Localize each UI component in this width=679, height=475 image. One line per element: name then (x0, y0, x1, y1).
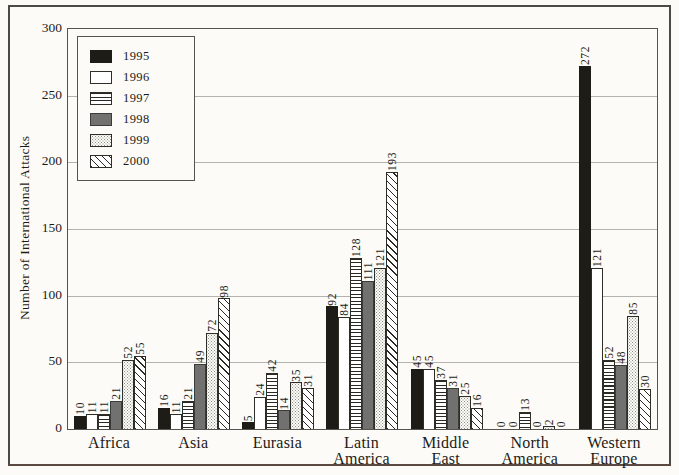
bar-value-label: 42 (267, 359, 278, 372)
bar-1998-asia: 49 (194, 364, 206, 429)
bar-1998-middle-east: 31 (447, 388, 459, 429)
y-tick-label-100: 100 (14, 286, 62, 304)
bar-value-label: 14 (279, 397, 290, 410)
bar-value-label: 11 (171, 401, 182, 413)
bar-value-label: 5 (243, 415, 254, 421)
legend-swatch-hlines (90, 92, 112, 105)
bar-1995-middle-east: 45 (411, 369, 423, 429)
legend-item-1999: 1999 (90, 130, 194, 151)
bar-1997-africa: 11 (98, 414, 110, 429)
bar-value-label: 193 (387, 152, 398, 171)
bar-value-label: 0 (495, 421, 506, 427)
y-tick-label-200: 200 (14, 152, 62, 170)
bar-1995-western-europe: 272 (579, 66, 591, 429)
bar-1998-western-europe: 48 (615, 365, 627, 429)
bar-value-label: 72 (207, 319, 218, 332)
bar-1999-africa: 52 (122, 360, 134, 429)
x-axis-label-middle-east: MiddleEast (404, 435, 488, 466)
x-axis-label-line: Middle (404, 435, 488, 451)
bar-2000-middle-east: 16 (471, 408, 483, 429)
legend-swatch-white (90, 71, 112, 84)
x-axis-label-line: North (488, 435, 572, 451)
bar-value-label: 0 (555, 421, 566, 427)
bar-value-label: 11 (99, 401, 110, 413)
bar-value-label: 121 (375, 248, 386, 267)
x-axis-label-line: America (319, 451, 403, 467)
bar-value-label: 37 (435, 366, 446, 379)
bar-1998-latin-america: 111 (362, 281, 374, 429)
bar-value-label: 11 (87, 401, 98, 413)
bar-value-label: 10 (75, 402, 86, 415)
bar-2000-latin-america: 193 (386, 172, 398, 429)
x-axis-label-western-europe: WesternEurope (572, 435, 656, 466)
bar-1995-africa: 10 (74, 416, 86, 429)
bar-value-label: 52 (123, 346, 134, 359)
x-axis-label-eurasia: Eurasia (235, 435, 319, 466)
group-western-europe: 27212152488530 (573, 29, 657, 429)
x-axis-labels: AfricaAsiaEurasiaLatinAmericaMiddleEastN… (67, 435, 656, 466)
x-axis-label-line: Latin (319, 435, 403, 451)
bar-value-label: 52 (603, 346, 614, 359)
bar-value-label: 31 (303, 374, 314, 387)
bar-value-label: 272 (579, 46, 590, 65)
bar-1998-eurasia: 14 (278, 410, 290, 429)
bar-1995-eurasia: 5 (242, 422, 254, 429)
bar-value-label: 16 (159, 394, 170, 407)
bar-value-label: 0 (531, 421, 542, 427)
legend-swatch-stipple (90, 134, 112, 147)
bar-value-label: 16 (471, 394, 482, 407)
bar-value-label: 21 (183, 387, 194, 400)
group-middle-east: 454537312516 (405, 29, 489, 429)
bar-1995-asia: 16 (158, 408, 170, 429)
legend-swatch-solid-black (90, 50, 112, 63)
bar-1999-western-europe: 85 (627, 316, 639, 429)
bar-value-label: 48 (615, 351, 626, 364)
bar-value-label: 21 (111, 387, 122, 400)
x-axis-label-asia: Asia (151, 435, 235, 466)
bar-value-label: 35 (291, 369, 302, 382)
y-tick-label-300: 300 (14, 19, 62, 37)
bar-value-label: 98 (219, 285, 230, 298)
bar-value-label: 45 (423, 355, 434, 368)
bar-2000-africa: 55 (134, 356, 146, 429)
bar-1996-asia: 11 (170, 414, 182, 429)
bar-1996-eurasia: 24 (254, 397, 266, 429)
bar-value-label: 49 (195, 350, 206, 363)
x-axis-label-north-america: NorthAmerica (488, 435, 572, 466)
bar-1995-latin-america: 92 (326, 306, 338, 429)
y-tick-label-50: 50 (14, 352, 62, 370)
legend-item-1995: 1995 (90, 46, 194, 67)
bar-value-label: 30 (639, 375, 650, 388)
legend-label: 1999 (123, 133, 150, 148)
x-axis-label-line: Western (572, 435, 656, 451)
bar-1997-asia: 21 (182, 401, 194, 429)
legend-item-1997: 1997 (90, 88, 194, 109)
bar-1997-latin-america: 128 (350, 258, 362, 429)
legend-label: 1996 (123, 70, 150, 85)
bar-value-label: 55 (135, 342, 146, 355)
bar-2000-asia: 98 (218, 298, 230, 429)
legend-item-2000: 2000 (90, 151, 194, 172)
x-axis-label-line: Eurasia (235, 435, 319, 451)
legend-swatch-diagonal (90, 155, 112, 168)
plot-area: 1011112152551611214972985244214353192841… (67, 28, 658, 430)
legend-swatch-solid-gray (90, 113, 112, 126)
bar-value-label: 45 (411, 355, 422, 368)
legend-label: 1995 (123, 49, 150, 64)
bar-1998-africa: 21 (110, 401, 122, 429)
bar-2000-eurasia: 31 (302, 388, 314, 429)
y-tick-label-0: 0 (14, 419, 62, 437)
y-tick-label-150: 150 (14, 219, 62, 237)
bar-value-label: 0 (507, 421, 518, 427)
group-north-america: 0013020 (489, 29, 573, 429)
legend-label: 1997 (123, 91, 150, 106)
x-axis-label-latin-america: LatinAmerica (319, 435, 403, 466)
x-axis-label-line: Europe (572, 451, 656, 467)
bar-1999-latin-america: 121 (374, 268, 386, 429)
bar-1999-eurasia: 35 (290, 382, 302, 429)
bar-value-label: 92 (327, 293, 338, 306)
bar-value-label: 128 (351, 238, 362, 257)
legend-label: 2000 (123, 154, 150, 169)
bar-value-label: 24 (255, 383, 266, 396)
bar-1997-north-america: 13 (519, 412, 531, 429)
